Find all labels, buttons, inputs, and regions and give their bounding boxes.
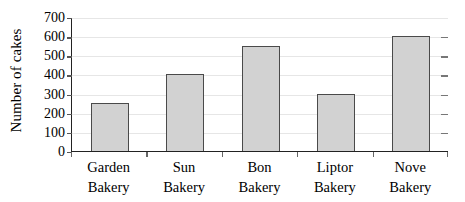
bar [392, 36, 430, 151]
x-axis-category-labels: GardenBakerySunBakeryBonBakeryLiptorBake… [71, 158, 448, 200]
x-axis-tickmark [447, 152, 448, 157]
x-axis-category-label: GardenBakery [71, 158, 146, 197]
category-name: Sun [146, 158, 221, 178]
x-axis-category-label: NoveBakery [373, 158, 448, 197]
x-axis-tickmark [297, 152, 298, 157]
category-suffix: Bakery [71, 178, 146, 198]
category-suffix: Bakery [222, 178, 297, 198]
bar-chart: Number of cakes 0100200300400500600700 G… [0, 0, 465, 202]
x-axis-tickmark [373, 152, 374, 157]
y-axis-tick-label: 100 [44, 126, 65, 140]
category-name: Garden [71, 158, 146, 178]
y-axis-tick-label: 200 [44, 107, 65, 121]
category-name: Liptor [297, 158, 372, 178]
category-suffix: Bakery [373, 178, 448, 198]
category-name: Bon [222, 158, 297, 178]
x-axis-category-label: SunBakery [146, 158, 221, 197]
x-axis-tickmark [146, 152, 147, 157]
y-axis-tick-label: 500 [44, 49, 65, 63]
x-axis-tickmark [71, 152, 72, 157]
bar [242, 46, 280, 151]
x-axis-category-label: LiptorBakery [297, 158, 372, 197]
y-axis-title-label: Number of cakes [9, 28, 26, 132]
y-axis-tick-label: 600 [44, 30, 65, 44]
bars-group [72, 18, 448, 151]
y-axis-tick-label: 0 [58, 145, 65, 159]
bar [166, 74, 204, 151]
category-name: Nove [373, 158, 448, 178]
bar [317, 94, 355, 151]
x-axis-category-label: BonBakery [222, 158, 297, 197]
plot-area [71, 18, 448, 152]
y-axis-tick-label: 300 [44, 88, 65, 102]
y-axis-tick-label: 400 [44, 68, 65, 82]
y-axis-title: Number of cakes [0, 0, 34, 160]
category-suffix: Bakery [297, 178, 372, 198]
y-axis-tick-label: 700 [44, 11, 65, 25]
category-suffix: Bakery [146, 178, 221, 198]
bar [91, 103, 129, 151]
y-axis-tick-labels: 0100200300400500600700 [30, 11, 68, 159]
x-axis-tickmark [222, 152, 223, 157]
